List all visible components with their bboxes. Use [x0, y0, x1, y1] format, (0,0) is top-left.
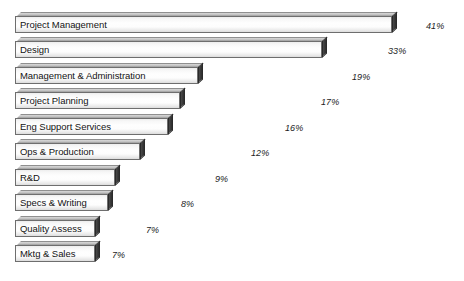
bar-value-label: 17% — [321, 97, 339, 107]
bar-end-face — [198, 62, 203, 84]
bar-end-face — [168, 113, 173, 135]
bar-row: Project Planning17% — [0, 88, 464, 113]
bar-3d: Eng Support Services — [15, 118, 168, 135]
bar-category-label: Quality Assess — [16, 224, 82, 234]
bar-end-face — [322, 36, 327, 58]
bar-3d: Quality Assess — [15, 220, 95, 237]
bar-front-face: Eng Support Services — [15, 118, 168, 135]
bar-category-label: Ops & Production — [16, 147, 94, 157]
bar-chart: Project Management41%Design33%Management… — [0, 0, 464, 281]
bar-row: Eng Support Services16% — [0, 114, 464, 139]
bar-value-label: 16% — [285, 123, 303, 133]
bar-category-label: R&D — [16, 173, 40, 183]
bar-row: Management & Administration19% — [0, 63, 464, 88]
bar-value-label: 7% — [146, 225, 159, 235]
bar-3d: Ops & Production — [15, 143, 140, 160]
bar-3d: Mktg & Sales — [15, 245, 95, 262]
bar-end-face — [95, 240, 100, 262]
bar-value-label: 12% — [251, 148, 269, 158]
bar-3d: Project Management — [15, 16, 392, 33]
bar-end-face — [140, 138, 145, 160]
bar-row: Ops & Production12% — [0, 139, 464, 164]
bar-row: R&D9% — [0, 165, 464, 190]
bar-front-face: Mktg & Sales — [15, 245, 95, 262]
bar-row: Quality Assess7% — [0, 216, 464, 241]
bar-value-label: 19% — [352, 72, 370, 82]
bar-category-label: Design — [16, 45, 49, 55]
bar-3d: R&D — [15, 169, 115, 186]
bar-row: Project Management41% — [0, 12, 464, 37]
bar-row: Mktg & Sales7% — [0, 241, 464, 266]
bar-value-label: 9% — [215, 174, 228, 184]
bar-row: Design33% — [0, 37, 464, 62]
bar-front-face: R&D — [15, 169, 115, 186]
bar-3d: Design — [15, 41, 322, 58]
bar-value-label: 8% — [181, 199, 194, 209]
bar-front-face: Quality Assess — [15, 220, 95, 237]
bar-category-label: Mktg & Sales — [16, 249, 75, 259]
bar-front-face: Ops & Production — [15, 143, 140, 160]
bar-end-face — [115, 164, 120, 186]
bar-front-face: Specs & Writing — [15, 194, 108, 211]
bar-front-face: Management & Administration — [15, 67, 198, 84]
bar-end-face — [392, 11, 397, 33]
bar-end-face — [108, 189, 113, 211]
bar-3d: Specs & Writing — [15, 194, 108, 211]
bar-value-label: 41% — [426, 21, 444, 31]
bar-row: Specs & Writing8% — [0, 190, 464, 215]
bar-front-face: Design — [15, 41, 322, 58]
bar-end-face — [95, 215, 100, 237]
bar-category-label: Project Planning — [16, 96, 88, 106]
bar-front-face: Project Management — [15, 16, 392, 33]
bar-value-label: 7% — [112, 250, 125, 260]
bar-end-face — [180, 87, 185, 109]
bar-3d: Project Planning — [15, 92, 180, 109]
bar-category-label: Specs & Writing — [16, 198, 87, 208]
bar-category-label: Eng Support Services — [16, 122, 111, 132]
bar-value-label: 33% — [388, 46, 406, 56]
bar-3d: Management & Administration — [15, 67, 198, 84]
bar-category-label: Management & Administration — [16, 71, 145, 81]
bar-category-label: Project Management — [16, 20, 107, 30]
bar-front-face: Project Planning — [15, 92, 180, 109]
